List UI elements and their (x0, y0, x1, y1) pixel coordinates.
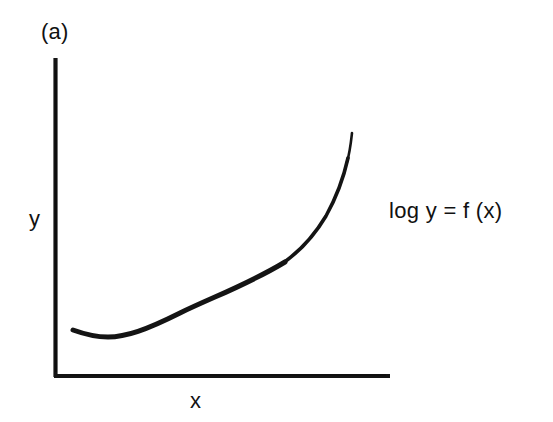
data-curve-lower (73, 262, 285, 337)
curve-equation-annotation: log y = f (x) (389, 200, 502, 222)
x-axis-label: x (190, 390, 201, 412)
figure-panel-a: (a) y x log y = f (x) (0, 0, 553, 422)
page-title: (a) (41, 21, 69, 43)
data-curve-mid (280, 158, 348, 265)
y-axis-label: y (29, 208, 40, 230)
